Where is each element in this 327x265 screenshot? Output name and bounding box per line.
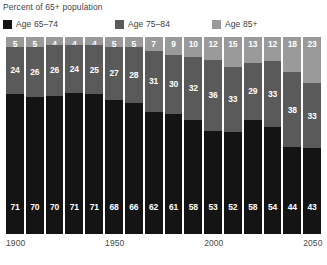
bar-segment-age-65-74: 71 <box>65 93 83 234</box>
bar-value-label: 27 <box>105 69 123 78</box>
bar-value-label: 32 <box>184 84 202 93</box>
bar-value-label: 24 <box>6 66 24 75</box>
bar-column: 52670 <box>26 37 44 234</box>
bar-segment-age-75-84: 29 <box>244 63 262 120</box>
bar-segment-age-75-84: 26 <box>26 47 44 98</box>
bar-segment-age-85-plus: 7 <box>145 37 163 51</box>
bar-column: 103258 <box>184 37 202 234</box>
bar-segment-age-65-74: 52 <box>224 132 242 234</box>
bar-segment-age-85-plus: 12 <box>204 37 222 60</box>
bar-value-label: 61 <box>165 203 183 212</box>
bar-segment-age-85-plus: 5 <box>26 37 44 47</box>
bar-column: 42571 <box>85 37 103 234</box>
bar-segment-age-65-74: 68 <box>105 100 123 234</box>
bar-segment-age-75-84: 27 <box>105 47 123 100</box>
bar-segment-age-85-plus: 9 <box>165 37 183 55</box>
bar-segment-age-85-plus: 18 <box>283 37 301 72</box>
bar-segment-age-75-84: 33 <box>303 83 321 149</box>
bar-column: 183844 <box>283 37 301 234</box>
bar-segment-age-75-84: 25 <box>85 45 103 94</box>
stacked-bar-chart: Percent of 65+ population Age 65–74 Age … <box>0 0 327 265</box>
bar-value-label: 12 <box>264 40 282 49</box>
bar-segment-age-85-plus: 23 <box>303 37 321 83</box>
bar-segment-age-65-74: 70 <box>46 96 64 234</box>
bar-column: 42471 <box>65 37 83 234</box>
chart-legend: Age 65–74 Age 75–84 Age 85+ <box>3 19 324 32</box>
bar-value-label: 68 <box>105 203 123 212</box>
bar-value-label: 28 <box>125 71 143 80</box>
bar-segment-age-75-84: 32 <box>184 57 202 120</box>
bar-segment-age-85-plus: 5 <box>105 37 123 47</box>
bar-value-label: 23 <box>303 40 321 49</box>
bar-value-label: 15 <box>224 40 242 49</box>
bar-value-label: 25 <box>85 65 103 74</box>
x-axis-tick-1900: 1900 <box>6 238 25 248</box>
legend-label-age-75-84: Age 75–84 <box>128 19 170 29</box>
bar-segment-age-85-plus: 15 <box>224 37 242 67</box>
bar-value-label: 58 <box>184 203 202 212</box>
bar-segment-age-65-74: 66 <box>125 103 143 234</box>
bar-segment-age-75-84: 38 <box>283 72 301 147</box>
x-axis-tick-2000: 2000 <box>204 238 223 248</box>
bar-column: 233343 <box>303 37 321 234</box>
bar-segment-age-65-74: 58 <box>184 120 202 234</box>
bar-column: 73162 <box>145 37 163 234</box>
bar-segment-age-75-84: 33 <box>224 67 242 132</box>
bar-segment-age-75-84: 33 <box>264 61 282 127</box>
legend-item-age-75-84: Age 75–84 <box>115 19 170 29</box>
legend-item-age-85-plus: Age 85+ <box>212 19 258 29</box>
bar-value-label: 71 <box>6 203 24 212</box>
bar-column: 123653 <box>204 37 222 234</box>
bar-segment-age-75-84: 30 <box>165 55 183 114</box>
bar-value-label: 62 <box>145 203 163 212</box>
bar-segment-age-65-74: 44 <box>283 147 301 234</box>
bar-segment-age-85-plus: 13 <box>244 37 262 63</box>
plot-area: 5247152670426704247142571527685286673162… <box>6 37 321 234</box>
bar-segment-age-75-84: 31 <box>145 51 163 112</box>
bar-segment-age-75-84: 24 <box>6 47 24 94</box>
bar-segment-age-65-74: 62 <box>145 112 163 234</box>
bar-segment-age-65-74: 61 <box>165 114 183 234</box>
legend-swatch-age-85-plus <box>212 20 221 29</box>
bar-value-label: 26 <box>46 66 64 75</box>
chart-title: Percent of 65+ population <box>3 2 103 12</box>
bar-segment-age-75-84: 28 <box>125 47 143 103</box>
bar-column: 123354 <box>264 37 282 234</box>
bar-segment-age-85-plus: 5 <box>125 37 143 47</box>
bar-column: 42670 <box>46 37 64 234</box>
bar-segment-age-65-74: 58 <box>244 120 262 234</box>
bar-column: 93061 <box>165 37 183 234</box>
bar-value-label: 70 <box>46 203 64 212</box>
x-axis-tick-2050: 2050 <box>303 238 322 248</box>
bar-value-label: 33 <box>224 95 242 104</box>
bar-column: 52768 <box>105 37 123 234</box>
bar-value-label: 26 <box>26 68 44 77</box>
bar-value-label: 29 <box>244 87 262 96</box>
legend-swatch-age-75-84 <box>115 20 124 29</box>
bar-value-label: 30 <box>165 80 183 89</box>
bar-value-label: 44 <box>283 203 301 212</box>
bar-value-label: 36 <box>204 91 222 100</box>
bar-value-label: 66 <box>125 203 143 212</box>
bar-segment-age-65-74: 53 <box>204 131 222 234</box>
bar-segment-age-65-74: 71 <box>85 94 103 234</box>
bar-segment-age-85-plus: 4 <box>46 37 64 45</box>
bar-segment-age-75-84: 36 <box>204 60 222 130</box>
legend-label-age-85-plus: Age 85+ <box>225 19 258 29</box>
bar-value-label: 31 <box>145 77 163 86</box>
bar-value-label: 52 <box>224 203 242 212</box>
bar-segment-age-85-plus: 5 <box>6 37 24 47</box>
bar-segment-age-85-plus: 4 <box>85 37 103 45</box>
x-axis: 1900195020002050 <box>6 236 321 252</box>
bar-value-label: 70 <box>26 203 44 212</box>
bar-segment-age-65-74: 54 <box>264 127 282 234</box>
bar-value-label: 71 <box>65 203 83 212</box>
legend-label-age-65-74: Age 65–74 <box>16 19 58 29</box>
bar-segment-age-65-74: 71 <box>6 94 24 234</box>
bar-segment-age-65-74: 70 <box>26 97 44 234</box>
bar-segment-age-75-84: 26 <box>46 45 64 96</box>
bar-value-label: 12 <box>204 40 222 49</box>
bar-value-label: 18 <box>283 40 301 49</box>
bar-value-label: 13 <box>244 40 262 49</box>
bar-segment-age-85-plus: 12 <box>264 37 282 61</box>
